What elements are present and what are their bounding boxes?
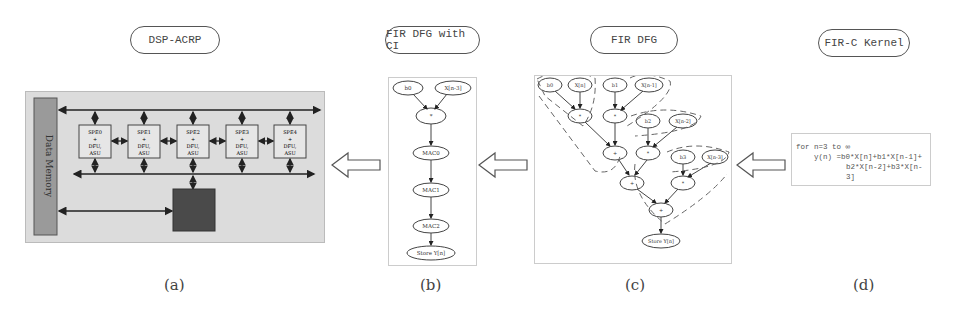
svg-text:ASU: ASU <box>235 150 247 156</box>
svg-text:X[n-3]: X[n-3] <box>707 154 723 160</box>
svg-text:DFU,: DFU, <box>284 143 297 149</box>
svg-text:MAC2: MAC2 <box>422 223 439 229</box>
pe-unit-3: SPE3 + DFU, ASU <box>226 125 258 158</box>
architecture-diagram: Data Memory SPE0 + DFU, ASU SPE1 + DFU, … <box>26 92 324 242</box>
left-arrow-icon <box>330 150 382 180</box>
svg-text:b0: b0 <box>404 85 412 91</box>
svg-text:MAC0: MAC0 <box>422 150 440 156</box>
svg-text:SPE2: SPE2 <box>186 129 200 135</box>
svg-text:DFU,: DFU, <box>187 143 200 149</box>
svg-text:+: + <box>240 136 244 142</box>
panel-c-caption: (c) <box>625 276 645 294</box>
svg-text:X[n-1]: X[n-1] <box>641 82 657 88</box>
pe-unit-4: SPE4 + DFU, ASU <box>274 125 306 158</box>
left-arrow-icon <box>735 150 787 180</box>
svg-text:*: * <box>430 113 433 119</box>
data-memory-label: Data Memory <box>44 135 54 198</box>
svg-text:+: + <box>191 136 195 142</box>
svg-text:+: + <box>288 136 292 142</box>
code-line-2: y(n) =b0*X[n]+b1*X[n-1]+ <box>796 152 930 162</box>
svg-text:DFU,: DFU, <box>138 143 151 149</box>
svg-text:+: + <box>613 150 617 156</box>
pe-unit-2: SPE2 + DFU, ASU <box>177 125 209 158</box>
svg-text:+: + <box>142 136 146 142</box>
code-line-3: b2*X[n-2]+b3*X[n-3] <box>796 162 930 182</box>
svg-text:SPE3: SPE3 <box>235 129 249 135</box>
svg-text:b3: b3 <box>680 154 686 160</box>
svg-text:+: + <box>630 180 634 186</box>
panel-c-dfg: b0 X[n] b1 X[n-1] * * b2 X[n-2] + * b3 X… <box>534 75 732 264</box>
svg-text:Store Y[n]: Store Y[n] <box>648 238 674 244</box>
svg-text:ASU: ASU <box>283 150 295 156</box>
svg-text:DFU,: DFU, <box>89 143 102 149</box>
svg-text:b1: b1 <box>612 82 618 88</box>
svg-text:X[n]: X[n] <box>575 82 586 88</box>
pe-unit-0: SPE0 + DFU, ASU <box>79 125 111 158</box>
svg-text:+: + <box>93 136 97 142</box>
panel-b-title: FIR DFG with CI <box>385 26 480 54</box>
svg-text:X[n-3]: X[n-3] <box>444 85 461 91</box>
left-arrow-icon <box>477 150 529 180</box>
pe-unit-1: SPE1 + DFU, ASU <box>128 125 160 158</box>
svg-text:ASU: ASU <box>88 150 100 156</box>
panel-a-title: DSP-ACRP <box>130 26 220 54</box>
svg-text:b2: b2 <box>645 118 651 124</box>
svg-text:X[n-2]: X[n-2] <box>675 118 691 124</box>
controller-block <box>173 189 215 231</box>
svg-text:SPE1: SPE1 <box>137 129 151 135</box>
panel-a-architecture: Data Memory SPE0 + DFU, ASU SPE1 + DFU, … <box>25 91 325 243</box>
panel-d-code-box: for n=3 to ∞ y(n) =b0*X[n]+b1*X[n-1]+ b2… <box>791 133 931 186</box>
panel-b-dfg-with-ci: b0 X[n-3] * MAC0 MAC1 MAC2 Store Y[n] <box>388 77 477 266</box>
cluster-outlines <box>537 76 729 224</box>
svg-text:b0: b0 <box>547 82 553 88</box>
svg-text:SPE0: SPE0 <box>88 129 102 135</box>
svg-text:ASU: ASU <box>186 150 198 156</box>
panel-b-caption: (b) <box>420 276 441 294</box>
svg-text:DFU,: DFU, <box>236 143 249 149</box>
panel-d-caption: (d) <box>853 276 874 294</box>
svg-text:ASU: ASU <box>137 150 149 156</box>
svg-text:Store Y[n]: Store Y[n] <box>417 250 445 256</box>
svg-text:MAC1: MAC1 <box>422 187 439 193</box>
svg-text:+: + <box>659 207 663 213</box>
panel-a-caption: (a) <box>164 276 185 294</box>
panel-c-title: FIR DFG <box>590 26 678 54</box>
svg-text:SPE4: SPE4 <box>283 129 297 135</box>
code-line-1: for n=3 to ∞ <box>796 142 930 152</box>
panel-d-title: FIR-C Kernel <box>818 29 910 57</box>
